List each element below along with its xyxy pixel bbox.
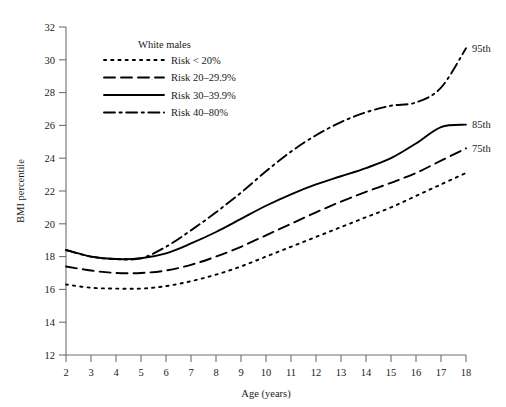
x-tick-label: 15 xyxy=(386,367,397,378)
x-tick-label: 4 xyxy=(113,367,119,378)
x-tick-label: 3 xyxy=(88,367,93,378)
chart-svg: 1214161820222426283032234567891011121314… xyxy=(0,0,506,407)
y-tick-label: 12 xyxy=(45,350,56,361)
series-line-2 xyxy=(66,125,466,260)
bmi-percentile-chart: 1214161820222426283032234567891011121314… xyxy=(0,0,506,407)
y-tick-label: 16 xyxy=(45,284,56,295)
y-tick-label: 14 xyxy=(45,317,56,328)
x-tick-label: 5 xyxy=(138,367,143,378)
end-label-95th: 95th xyxy=(472,43,491,54)
y-tick-label: 26 xyxy=(45,120,56,131)
y-tick-label: 24 xyxy=(45,153,56,164)
x-tick-label: 8 xyxy=(213,367,218,378)
series-line-3 xyxy=(66,48,466,259)
end-label-75th: 75th xyxy=(472,143,491,154)
x-tick-label: 14 xyxy=(361,367,372,378)
x-tick-label: 9 xyxy=(238,367,243,378)
x-tick-label: 6 xyxy=(163,367,168,378)
legend-title: White males xyxy=(138,39,191,50)
axis-lines xyxy=(66,27,466,355)
x-tick-label: 10 xyxy=(261,367,272,378)
legend-label-1: Risk 20–29.9% xyxy=(171,72,236,83)
y-axis-title: BMI percentile xyxy=(15,159,26,223)
y-tick-label: 30 xyxy=(45,55,56,66)
legend-label-3: Risk 40–80% xyxy=(171,107,228,118)
x-tick-label: 17 xyxy=(436,367,447,378)
x-tick-label: 2 xyxy=(63,367,68,378)
series-line-1 xyxy=(66,148,466,273)
y-tick-label: 22 xyxy=(45,186,56,197)
x-tick-label: 7 xyxy=(188,367,193,378)
y-tick-label: 32 xyxy=(45,22,56,33)
series-line-0 xyxy=(66,173,466,289)
x-tick-label: 12 xyxy=(311,367,322,378)
y-tick-label: 28 xyxy=(45,87,56,98)
y-tick-label: 20 xyxy=(45,219,56,230)
y-tick-label: 18 xyxy=(45,251,56,262)
legend-label-2: Risk 30–39.9% xyxy=(171,90,236,101)
x-tick-label: 11 xyxy=(286,367,296,378)
x-tick-label: 16 xyxy=(411,367,422,378)
x-tick-label: 18 xyxy=(461,367,472,378)
x-axis-title: Age (years) xyxy=(241,388,291,400)
end-label-85th: 85th xyxy=(472,119,491,130)
x-tick-label: 13 xyxy=(336,367,347,378)
legend-label-0: Risk < 20% xyxy=(171,55,221,66)
